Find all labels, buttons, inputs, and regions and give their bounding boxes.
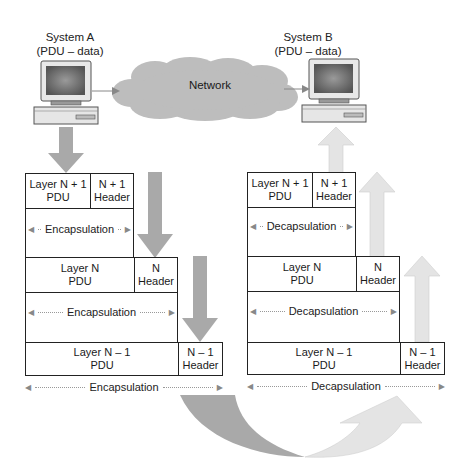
header-label: N <box>360 261 396 274</box>
arrow-a-to-network-icon <box>92 86 122 96</box>
network-label: Network <box>175 79 245 91</box>
down-arrow-icon <box>135 172 175 260</box>
pdu-label: PDU <box>283 274 322 287</box>
right-layer-n-row: Layer NPDU NHeader <box>247 256 400 292</box>
right-n-header: NHeader <box>356 257 399 291</box>
pdu-label: PDU <box>29 191 86 204</box>
header-label: Header <box>138 275 174 288</box>
pdu-label: Layer N + 1 <box>251 177 308 190</box>
up-arrow-icon <box>316 127 356 175</box>
right-n-plus-1-header: N + 1Header <box>312 173 355 207</box>
header-label: N – 1 <box>182 346 218 359</box>
right-arrowhead-icon: ▶ <box>439 382 445 391</box>
pdu-label: PDU <box>74 359 131 372</box>
down-arrow-icon <box>46 127 86 175</box>
header-label: N – 1 <box>404 346 440 359</box>
right-n-minus-1-header: N – 1Header <box>400 343 444 374</box>
right-n-minus-1-pdu: Layer N – 1PDU <box>248 343 400 374</box>
left-encapsulation-label-3: ◀ Encapsulation ▶ <box>25 380 223 394</box>
process-label: Encapsulation <box>67 306 136 318</box>
right-decapsulation-label-1: ◀ Decapsulation ▶ <box>250 219 353 233</box>
up-arrow-icon <box>357 172 397 260</box>
system-b-caption: System B (PDU – data) <box>268 30 348 58</box>
left-layer-n-minus-1-row: Layer N – 1PDU N – 1Header <box>25 342 223 376</box>
pdu-label: PDU <box>61 275 100 288</box>
left-arrowhead-icon: ◀ <box>25 383 31 392</box>
pdu-label: Layer N – 1 <box>296 346 353 359</box>
pdu-label: Layer N <box>283 261 322 274</box>
left-n-minus-1-header: N – 1Header <box>178 343 222 375</box>
process-label: Decapsulation <box>267 220 337 232</box>
pdu-label: Layer N <box>61 262 100 275</box>
left-arrowhead-icon: ◀ <box>247 382 253 391</box>
header-label: N <box>138 262 174 275</box>
right-layer-n-minus-1-row: Layer N – 1PDU N – 1Header <box>247 342 445 375</box>
left-n-minus-1-pdu: Layer N – 1PDU <box>26 343 178 375</box>
right-n-pdu: Layer NPDU <box>248 257 356 291</box>
system-a-title: System A <box>30 30 110 44</box>
right-decapsulation-label-2: ◀ Decapsulation ▶ <box>250 304 397 318</box>
left-arrowhead-icon: ◀ <box>250 307 256 316</box>
left-layer-n-plus-1-row: Layer N + 1PDU N + 1Header <box>25 173 134 209</box>
left-encapsulation-label-2: ◀ Encapsulation ▶ <box>28 305 175 319</box>
left-arrowhead-icon: ◀ <box>28 225 34 234</box>
header-label: Header <box>94 191 130 204</box>
arrow-network-to-b-icon <box>284 84 314 94</box>
left-arrowhead-icon: ◀ <box>250 222 256 231</box>
header-label: N + 1 <box>316 177 352 190</box>
left-n-plus-1-header: N + 1Header <box>90 174 133 208</box>
pdu-label: Layer N – 1 <box>74 346 131 359</box>
right-layer-n-plus-1-row: Layer N + 1PDU N + 1Header <box>247 172 356 208</box>
right-arrowhead-icon: ▶ <box>125 225 131 234</box>
pdu-label: PDU <box>251 190 308 203</box>
curved-transfer-arrow-icon <box>180 395 420 470</box>
left-n-pdu: Layer NPDU <box>26 258 134 292</box>
right-arrowhead-icon: ▶ <box>169 308 175 317</box>
system-a-subtitle: (PDU – data) <box>30 44 110 58</box>
right-n-plus-1-pdu: Layer N + 1PDU <box>248 173 312 207</box>
header-label: N + 1 <box>94 178 130 191</box>
header-label: Header <box>182 359 218 372</box>
header-label: Header <box>360 274 396 287</box>
up-arrow-icon <box>402 256 442 344</box>
process-label: Encapsulation <box>89 381 158 393</box>
pdu-label: Layer N + 1 <box>29 178 86 191</box>
left-layer-n-row: Layer NPDU NHeader <box>25 257 178 293</box>
left-arrowhead-icon: ◀ <box>28 308 34 317</box>
left-n-plus-1-pdu: Layer N + 1PDU <box>26 174 90 208</box>
right-arrowhead-icon: ▶ <box>217 383 223 392</box>
process-label: Decapsulation <box>289 305 359 317</box>
right-decapsulation-label-3: ◀ Decapsulation ▶ <box>247 379 445 393</box>
system-a-caption: System A (PDU – data) <box>30 30 110 58</box>
process-label: Encapsulation <box>45 223 114 235</box>
pdu-label: PDU <box>296 359 353 372</box>
header-label: Header <box>316 190 352 203</box>
system-b-title: System B <box>268 30 348 44</box>
header-label: Header <box>404 359 440 372</box>
right-arrowhead-icon: ▶ <box>347 222 353 231</box>
process-label: Decapsulation <box>311 380 381 392</box>
right-arrowhead-icon: ▶ <box>391 307 397 316</box>
left-n-header: NHeader <box>134 258 177 292</box>
down-arrow-icon <box>180 256 220 344</box>
left-encapsulation-label-1: ◀ Encapsulation ▶ <box>28 222 131 236</box>
